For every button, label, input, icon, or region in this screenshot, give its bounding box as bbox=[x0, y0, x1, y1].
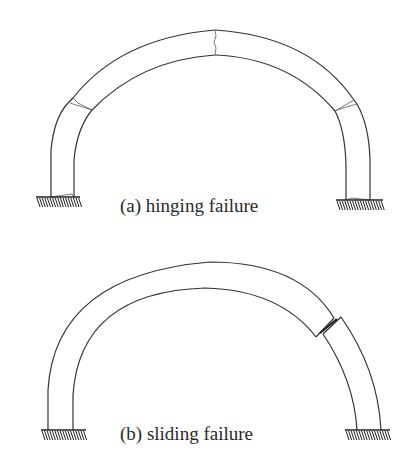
panel-hinging-failure: (a) hinging failure bbox=[36, 30, 384, 217]
arch-inner-edge bbox=[73, 288, 357, 430]
fixed-support-icon bbox=[41, 430, 87, 440]
panel-caption: (a) hinging failure bbox=[120, 195, 258, 217]
panel-sliding-failure: (b) sliding failure bbox=[41, 262, 391, 445]
panel-caption: (b) sliding failure bbox=[120, 423, 253, 445]
fixed-support-icon bbox=[36, 197, 82, 207]
sliding-joint bbox=[320, 319, 337, 333]
fixed-support-icon bbox=[336, 200, 384, 210]
arch-inner-edge bbox=[74, 55, 346, 200]
arch-failure-diagram: (a) hinging failure (b) sliding failure bbox=[0, 0, 402, 473]
fixed-support-icon bbox=[345, 430, 391, 440]
